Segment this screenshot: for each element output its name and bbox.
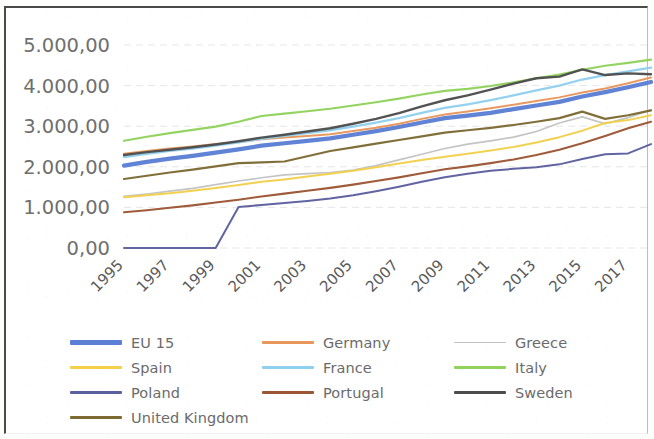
y-axis-tick-label: 2.000,00 bbox=[23, 156, 110, 179]
legend-item-label: Poland bbox=[131, 385, 180, 401]
y-axis-tick-label: 0,00 bbox=[67, 237, 110, 260]
legend-item-germany[interactable]: Germany bbox=[262, 330, 454, 355]
legend-item-label: EU 15 bbox=[131, 335, 174, 351]
legend-row: PolandPortugalSweden bbox=[70, 380, 646, 405]
legend-item-france[interactable]: France bbox=[262, 355, 454, 380]
legend-item-label: Italy bbox=[515, 360, 547, 376]
y-axis-tick-label: 1.000,00 bbox=[23, 196, 110, 219]
legend-item-united-kingdom[interactable]: United Kingdom bbox=[70, 405, 265, 430]
legend-item-label: Greece bbox=[515, 335, 567, 351]
y-axis-tick-label: 5.000,00 bbox=[23, 34, 110, 57]
legend-swatch-icon bbox=[454, 366, 506, 368]
legend-item-portugal[interactable]: Portugal bbox=[262, 380, 454, 405]
x-axis-tick-label: 2011 bbox=[454, 256, 494, 296]
x-axis-tick-label: 2007 bbox=[362, 256, 402, 296]
legend-swatch-icon bbox=[262, 366, 314, 368]
x-axis-tick-label: 2003 bbox=[270, 256, 310, 296]
line-chart: 0,001.000,002.000,003.000,004.000,005.00… bbox=[6, 8, 654, 318]
plot-area: 0,001.000,002.000,003.000,004.000,005.00… bbox=[6, 8, 654, 308]
legend-row: EU 15GermanyGreece bbox=[70, 330, 646, 355]
legend-swatch-icon bbox=[70, 366, 122, 368]
x-axis-tick-label: 2017 bbox=[591, 256, 631, 296]
legend-item-poland[interactable]: Poland bbox=[70, 380, 262, 405]
series-line-france bbox=[124, 68, 651, 157]
legend-item-label: France bbox=[323, 360, 372, 376]
legend-swatch-icon bbox=[454, 342, 506, 344]
legend-row: SpainFranceItaly bbox=[70, 355, 646, 380]
legend-item-eu-15[interactable]: EU 15 bbox=[70, 330, 262, 355]
chart-frame: 0,001.000,002.000,003.000,004.000,005.00… bbox=[4, 6, 648, 434]
x-axis-tick-label: 2001 bbox=[225, 256, 265, 296]
legend-swatch-icon bbox=[70, 340, 122, 344]
x-axis-tick-label: 1995 bbox=[87, 256, 127, 296]
legend-item-label: Spain bbox=[131, 360, 172, 376]
legend-swatch-icon bbox=[70, 416, 122, 419]
legend-item-label: Germany bbox=[323, 335, 390, 351]
legend-swatch-icon bbox=[262, 341, 314, 343]
y-axis-tick-label: 4.000,00 bbox=[23, 75, 110, 98]
x-axis-tick-label: 1997 bbox=[133, 256, 173, 296]
chart-legend: EU 15GermanyGreeceSpainFranceItalyPoland… bbox=[70, 330, 646, 439]
legend-row: United Kingdom bbox=[70, 405, 646, 430]
legend-item-label: Portugal bbox=[323, 385, 384, 401]
legend-swatch-icon bbox=[262, 391, 314, 394]
x-axis-tick-label: 1999 bbox=[179, 256, 219, 296]
legend-item-spain[interactable]: Spain bbox=[70, 355, 262, 380]
legend-swatch-icon bbox=[454, 391, 506, 394]
legend-item-label: Sweden bbox=[515, 385, 573, 401]
x-axis-tick-label: 2009 bbox=[408, 256, 448, 296]
y-axis-tick-label: 3.000,00 bbox=[23, 115, 110, 138]
legend-item-label: United Kingdom bbox=[131, 410, 249, 426]
series-line-poland bbox=[124, 144, 651, 248]
x-axis-tick-label: 2015 bbox=[545, 256, 585, 296]
legend-item-sweden[interactable]: Sweden bbox=[454, 380, 646, 405]
legend-item-greece[interactable]: Greece bbox=[454, 330, 646, 355]
legend-swatch-icon bbox=[70, 391, 122, 394]
x-axis-tick-label: 2013 bbox=[500, 256, 540, 296]
legend-item-italy[interactable]: Italy bbox=[454, 355, 646, 380]
x-axis-tick-label: 2005 bbox=[316, 256, 356, 296]
